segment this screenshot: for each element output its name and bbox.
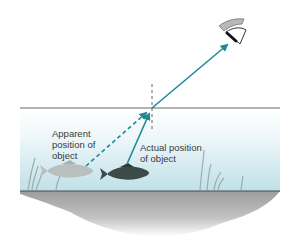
- apparent-position-label: Apparent position of object: [52, 128, 95, 161]
- actual-label-line1: Actual position: [140, 142, 202, 153]
- apparent-label-line3: object: [52, 150, 95, 161]
- ground: [20, 191, 280, 236]
- apparent-label-line1: Apparent: [52, 128, 95, 139]
- refracted-ray: [152, 45, 227, 108]
- actual-label-line2: of object: [140, 153, 202, 164]
- eye-icon: [219, 19, 246, 44]
- actual-position-label: Actual position of object: [140, 142, 202, 164]
- refraction-diagram: [0, 0, 294, 241]
- apparent-label-line2: position of: [52, 139, 95, 150]
